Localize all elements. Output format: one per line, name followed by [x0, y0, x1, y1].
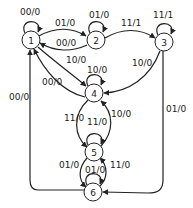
edge-label-1-1: 00/0	[20, 7, 40, 17]
edge-label-5-5: 11/0	[87, 117, 107, 127]
state-node-5-label: 5	[91, 148, 97, 158]
state-node-5: 5	[85, 143, 103, 161]
edge-label-1-4: 10/0	[66, 55, 86, 65]
edge-label-2-2: 01/0	[89, 10, 109, 20]
edge-label-5-6: 01/0	[59, 160, 79, 170]
edge-label-4-5: 11/0	[64, 113, 84, 123]
edge-label-6-5: 11/0	[110, 160, 130, 170]
edge-label-6-1: 00/0	[9, 92, 29, 102]
edge-1-2	[39, 29, 86, 36]
edge-2-3	[105, 31, 155, 39]
edge-3-6-path	[103, 51, 163, 193]
state-node-3-label: 3	[161, 38, 167, 48]
edge-label-1-2: 01/0	[55, 18, 75, 28]
state-node-6-label: 6	[90, 188, 96, 198]
state-node-2: 2	[87, 31, 105, 49]
state-node-1-label: 1	[28, 36, 34, 46]
edge-1-2-path	[39, 29, 86, 36]
edge-3-6	[103, 51, 163, 193]
state-node-4-label: 4	[91, 89, 97, 99]
state-node-3: 3	[155, 33, 173, 51]
edge-label-2-3: 11/1	[121, 18, 141, 28]
edge-label-5-4: 10/0	[111, 109, 131, 119]
edge-label-6-6: 01/0	[85, 165, 105, 175]
state-node-6: 6	[84, 183, 102, 201]
edge-label-3-6: 01/0	[166, 104, 186, 114]
state-node-2-label: 2	[93, 36, 99, 46]
edge-label-3-4: 10/0	[132, 58, 152, 68]
edge-2-3-path	[105, 31, 155, 39]
state-node-4: 4	[85, 84, 103, 102]
edge-label-4-1: 00/0	[42, 77, 62, 87]
edge-label-3-3: 11/1	[153, 10, 173, 20]
state-diagram: 00/0 01/0 00/0 01/0 11/1 11/1 10/0 10/0 …	[0, 0, 193, 208]
edge-label-4-4: 10/0	[87, 65, 107, 75]
state-node-1: 1	[22, 31, 40, 49]
edge-label-2-1: 00/0	[56, 38, 76, 48]
